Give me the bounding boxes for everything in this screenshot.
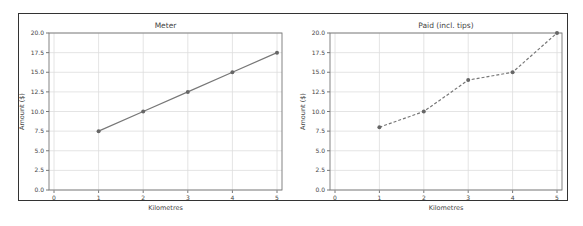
x-tick-label: 2 xyxy=(141,194,145,201)
x-axis-label: Kilometres xyxy=(429,204,464,212)
y-tick-label: 7.5 xyxy=(315,127,325,134)
y-tick-label: 5.0 xyxy=(34,147,44,154)
data-point xyxy=(186,90,190,94)
y-axis-label: Amount ($) xyxy=(18,93,26,130)
data-point xyxy=(422,110,426,114)
data-point xyxy=(511,70,515,74)
y-tick-label: 2.5 xyxy=(315,166,325,173)
y-tick-label: 10.0 xyxy=(312,108,326,115)
x-tick-label: 5 xyxy=(555,194,559,201)
data-point xyxy=(230,70,234,74)
y-axis-label: Amount ($) xyxy=(299,93,307,130)
chart-meter: 0123450.02.55.07.510.012.515.017.520.0Me… xyxy=(18,21,282,212)
y-tick-label: 2.5 xyxy=(34,166,44,173)
y-tick-label: 17.5 xyxy=(312,49,326,56)
y-tick-label: 12.5 xyxy=(31,88,45,95)
x-axis-label: Kilometres xyxy=(148,204,183,212)
data-point xyxy=(141,110,145,114)
y-tick-label: 0.0 xyxy=(315,186,325,193)
y-tick-label: 0.0 xyxy=(34,186,44,193)
data-point xyxy=(466,78,470,82)
y-tick-label: 20.0 xyxy=(31,29,45,36)
data-point xyxy=(555,31,559,35)
chart-paid: 0123450.02.55.07.510.012.515.017.520.0Pa… xyxy=(299,21,562,212)
data-point xyxy=(275,51,279,55)
x-tick-label: 0 xyxy=(333,194,337,201)
charts: 0123450.02.55.07.510.012.515.017.520.0Me… xyxy=(0,0,583,226)
data-point xyxy=(97,129,101,133)
x-tick-label: 1 xyxy=(377,194,381,201)
x-tick-label: 5 xyxy=(275,194,279,201)
y-tick-label: 5.0 xyxy=(315,147,325,154)
chart-title: Paid (incl. tips) xyxy=(418,21,473,30)
y-tick-label: 17.5 xyxy=(31,49,45,56)
x-tick-label: 3 xyxy=(186,194,190,201)
data-point xyxy=(377,125,381,129)
y-tick-label: 15.0 xyxy=(31,68,45,75)
y-tick-label: 7.5 xyxy=(34,127,44,134)
x-tick-label: 4 xyxy=(511,194,515,201)
y-tick-label: 20.0 xyxy=(312,29,326,36)
x-tick-label: 2 xyxy=(422,194,426,201)
x-tick-label: 1 xyxy=(97,194,101,201)
y-tick-label: 10.0 xyxy=(31,108,45,115)
y-tick-label: 15.0 xyxy=(312,68,326,75)
x-tick-label: 0 xyxy=(52,194,56,201)
y-tick-label: 12.5 xyxy=(312,88,326,95)
x-tick-label: 3 xyxy=(466,194,470,201)
x-tick-label: 4 xyxy=(230,194,234,201)
chart-title: Meter xyxy=(155,21,178,30)
